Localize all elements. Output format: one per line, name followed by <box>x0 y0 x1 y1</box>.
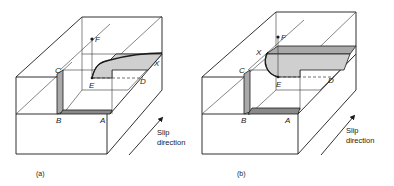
label-E-a: E <box>89 81 95 90</box>
panel-a: C B A E F D X Slip direction (a) <box>16 16 185 178</box>
label-D-b: D <box>328 76 334 85</box>
label-D-a: D <box>140 77 146 86</box>
point-E-b <box>277 76 280 79</box>
slipped-step-floor-b <box>248 108 300 114</box>
label-B-a: B <box>56 116 62 125</box>
label-E-b: E <box>276 80 282 89</box>
point-F-a <box>90 37 93 40</box>
slipped-area-a <box>92 54 162 78</box>
slipped-band-b <box>266 46 356 54</box>
slipped-step-floor-a <box>60 110 112 114</box>
label-F-a: F <box>95 35 101 44</box>
slip-label-line2-a: direction <box>157 138 185 147</box>
slipped-step-face-a <box>57 70 63 114</box>
label-A-a: A <box>99 116 105 125</box>
slip-diagram: C B A E F D X Slip direction (a) <box>0 0 394 186</box>
panel-b: C B A E F D X Slip direction (b) <box>202 12 374 178</box>
label-X-a: X <box>153 59 160 68</box>
caption-a: (a) <box>36 170 45 178</box>
label-A-b: A <box>284 116 290 125</box>
label-B-b: B <box>241 116 247 125</box>
label-C-a: C <box>55 66 61 75</box>
slipped-step-face-b <box>244 70 250 114</box>
label-C-b: C <box>239 66 245 75</box>
point-F-b <box>276 35 279 38</box>
label-X-b: X <box>255 48 262 57</box>
point-E-a <box>91 77 94 80</box>
slip-label-line2-b: direction <box>346 136 374 145</box>
label-F-b: F <box>281 33 287 42</box>
slip-label-line1-b: Slip <box>346 126 359 135</box>
caption-b: (b) <box>237 170 246 178</box>
slip-label-line1-a: Slip <box>157 128 170 137</box>
